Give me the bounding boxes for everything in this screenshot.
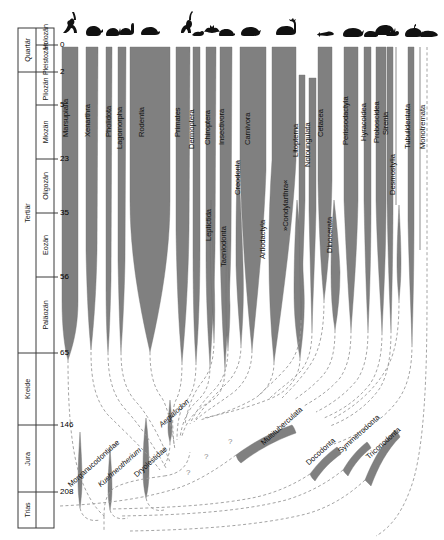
taxon-label: Proboscidea	[372, 101, 381, 143]
uncertainty-marker: ?	[228, 437, 232, 446]
timescale-tick: 2	[60, 67, 64, 76]
taxon-label: Creodonta	[233, 160, 242, 195]
epoch-label: Oligozän	[41, 172, 50, 200]
taxon-label: Dermoptera	[187, 109, 196, 149]
timescale-tick: 56	[60, 272, 69, 281]
taxon-label: Rodentia	[137, 107, 146, 137]
timescale-tick: 0	[60, 40, 64, 49]
taxon-label: Notoungulata	[303, 122, 312, 167]
uncertainty-marker: ?	[186, 468, 190, 477]
ungulate-silhouette	[276, 18, 296, 35]
armadillo-silhouette	[86, 26, 103, 36]
epoch-label: Pliozän	[41, 77, 50, 100]
epoch-label: Miozän	[41, 121, 50, 144]
pangolin-silhouette	[106, 28, 121, 36]
taxon-label: Artiodactyla	[258, 220, 267, 259]
taxon-label: »Condylarthra«	[281, 180, 290, 231]
epoch-label: Paläozän	[41, 300, 50, 329]
kangaroo-silhouette	[63, 12, 77, 33]
rabbit-silhouette	[120, 23, 134, 35]
primate-silhouette	[181, 11, 193, 33]
taxon-label: Taeniodonta	[219, 226, 228, 267]
taxon-label: Lagomorpha	[115, 107, 124, 149]
taxon-label: Hyracoidea	[359, 103, 368, 141]
taxon-label: Chiroptera	[203, 110, 212, 145]
taxon-label: Litopterna	[291, 124, 300, 157]
era-label: Trias	[23, 502, 32, 517]
taxon-label: Dinocerata	[325, 217, 334, 253]
era-label: Kreide	[23, 379, 32, 399]
timescale-tick: 23	[60, 154, 69, 163]
whale-silhouette	[317, 32, 334, 37]
uncertainty-marker: ?	[204, 452, 208, 461]
taxon-label: Xenarthra	[83, 104, 92, 137]
bat-silhouette	[204, 25, 220, 33]
taxon-label: Tubulidentata	[403, 104, 412, 149]
rodent-silhouette	[141, 27, 160, 35]
era-label: Tertiär	[23, 203, 32, 222]
epoch-label: Eozän	[41, 235, 50, 255]
phylogenetic-tree-figure: QuartärTertiärKreideJuraTrias HolozänPle…	[0, 0, 444, 540]
taxon-label: Carnivora	[243, 113, 252, 145]
taxon-label: Perissodactyla	[341, 96, 350, 145]
taxon-label: Leptictida	[204, 209, 213, 241]
taxon-label: Sirenia	[381, 112, 390, 135]
timescale-tick: 65	[60, 348, 69, 357]
shrew-silhouette	[219, 29, 235, 36]
taxon-label: Monotremata	[418, 105, 427, 149]
taxon-label: Cetacea	[316, 109, 325, 137]
taxon-label: Pholidota	[104, 106, 113, 137]
taxon-label: Insectivora	[217, 109, 226, 145]
timescale-tick: 146	[60, 420, 73, 429]
taxon-label: Primates	[173, 107, 182, 137]
timescale-tick: 35	[60, 208, 69, 217]
taxon-label: Desmostylia	[388, 154, 397, 195]
rhino-silhouette	[343, 28, 364, 37]
tree-canvas	[0, 0, 444, 540]
carnivore-silhouette	[241, 27, 261, 36]
era-label: Jura	[23, 452, 32, 466]
taxon-label: Marsupialia	[61, 99, 70, 137]
era-label: Quartär	[23, 38, 32, 62]
colugo-silhouette	[192, 31, 204, 36]
epoch-label: Pleistozän	[41, 42, 50, 74]
